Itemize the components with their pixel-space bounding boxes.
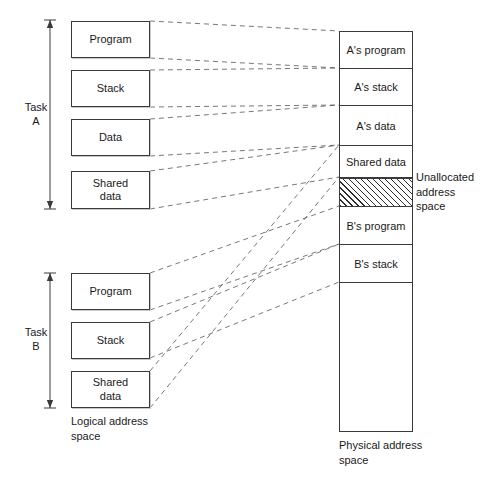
wire-b-program-top <box>150 206 339 273</box>
physical-segment-shared-data[interactable]: Shared data <box>340 146 412 178</box>
wire-b-stack-top <box>150 244 339 322</box>
physical-address-space-caption: Physical address space <box>339 438 422 467</box>
diagram-canvas: Task A Program Stack Data Shared data Ta… <box>0 0 495 478</box>
physical-segment-label: B's stack <box>354 258 398 270</box>
wire-a-shared-top <box>150 145 339 171</box>
physical-segment-unallocated[interactable] <box>340 178 412 207</box>
unallocated-address-space-note: Unallocated address space <box>416 170 474 214</box>
logical-segment-a-data[interactable]: Data <box>71 119 150 156</box>
wire-a-stack-top <box>150 68 339 70</box>
physical-segment-label: A's data <box>356 120 395 132</box>
task-a-label: Task A <box>18 100 54 129</box>
physical-segment-label: A's program <box>347 44 406 56</box>
physical-segment-label: Shared data <box>346 156 406 168</box>
logical-segment-a-program[interactable]: Program <box>71 21 150 58</box>
logical-segment-a-stack[interactable]: Stack <box>71 70 150 107</box>
physical-segment-b-stack[interactable]: B's stack <box>340 245 412 283</box>
wire-b-shared-bottom <box>150 177 339 408</box>
task-b-label: Task B <box>18 325 54 354</box>
wire-b-program-bottom <box>150 244 339 310</box>
wire-a-stack-bottom <box>150 105 339 107</box>
wire-a-program-bottom <box>150 58 339 68</box>
wire-a-shared-bottom <box>150 177 339 209</box>
physical-segment-a-program[interactable]: A's program <box>340 32 412 69</box>
logical-segment-b-stack[interactable]: Stack <box>71 322 150 359</box>
physical-segment-a-stack[interactable]: A's stack <box>340 69 412 106</box>
wire-b-shared-top <box>150 145 339 371</box>
physical-segment-label: B's program <box>347 220 406 232</box>
wire-a-data-bottom <box>150 145 339 156</box>
logical-address-space-caption: Logical address space <box>71 414 148 443</box>
logical-segment-b-program[interactable]: Program <box>71 273 150 310</box>
logical-segment-b-shared-data[interactable]: Shared data <box>71 371 150 408</box>
physical-segment-b-program[interactable]: B's program <box>340 207 412 245</box>
wire-a-data-top <box>150 105 339 119</box>
wire-b-stack-bottom <box>150 282 339 358</box>
wire-a-program-top <box>150 21 339 31</box>
physical-segment-label: A's stack <box>354 81 398 93</box>
logical-segment-a-shared-data[interactable]: Shared data <box>71 171 150 209</box>
physical-segment-a-data[interactable]: A's data <box>340 106 412 146</box>
physical-address-space-column: A's programA's stackA's dataShared dataB… <box>339 31 413 432</box>
physical-segment-free[interactable] <box>340 283 412 433</box>
